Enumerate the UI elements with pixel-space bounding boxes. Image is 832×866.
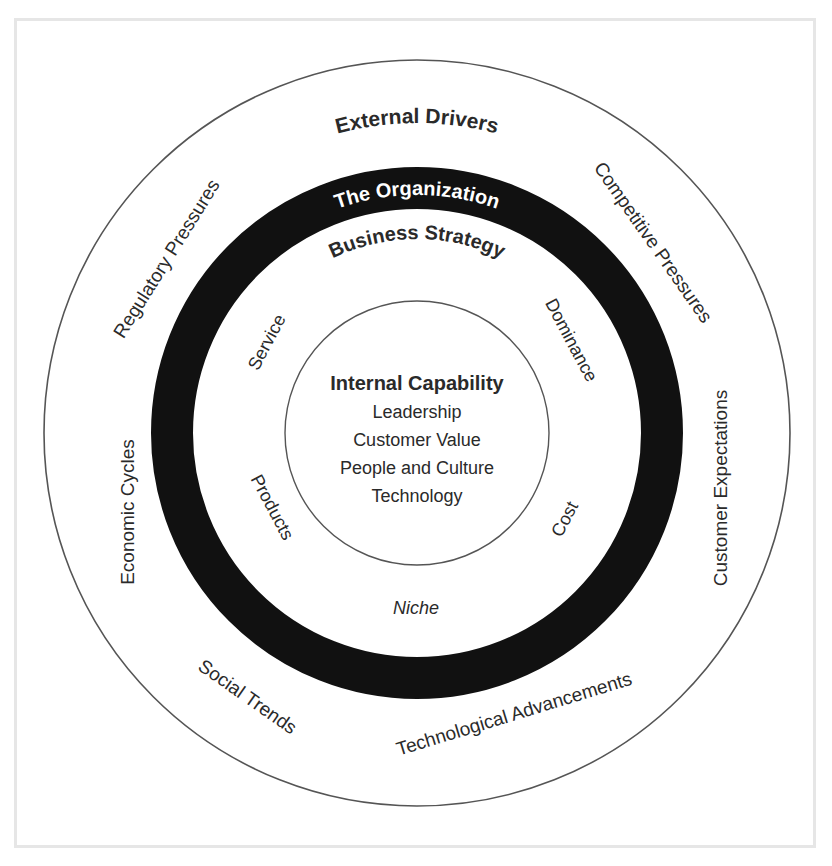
strategy-service: Service bbox=[244, 311, 290, 373]
business-strategy-title: Business Strategy bbox=[325, 221, 509, 262]
external-drivers-title: External Drivers bbox=[333, 104, 501, 137]
capability-people-and-culture: People and Culture bbox=[340, 458, 494, 478]
concentric-circles-diagram: External Drivers The Organization Busine… bbox=[0, 0, 832, 866]
strategy-products: Products bbox=[247, 471, 298, 543]
internal-capability-title: Internal Capability bbox=[330, 372, 504, 394]
driver-social-trends: Social Trends bbox=[195, 655, 301, 738]
strategy-niche: Niche bbox=[393, 598, 439, 618]
capability-leadership: Leadership bbox=[372, 402, 461, 422]
strategy-cost: Cost bbox=[547, 498, 582, 540]
driver-customer-expectations: Customer Expectations bbox=[710, 390, 731, 586]
driver-economic-cycles: Economic Cycles bbox=[117, 439, 138, 585]
capability-technology: Technology bbox=[371, 486, 462, 506]
strategy-dominance: Dominance bbox=[541, 295, 601, 385]
capability-customer-value: Customer Value bbox=[353, 430, 481, 450]
